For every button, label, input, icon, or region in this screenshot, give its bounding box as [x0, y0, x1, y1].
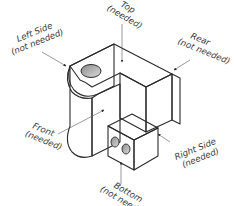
part-drawing: Top (needed) Rear (not needed) Left Side… — [0, 0, 234, 206]
lower-block-top — [108, 114, 158, 140]
notch-back-wall — [120, 73, 146, 132]
right-face — [172, 74, 180, 124]
rear-arrow — [174, 60, 190, 70]
right-arrow — [158, 134, 170, 142]
label-right: Right Side (needed) — [173, 136, 221, 171]
left-arrow — [42, 52, 66, 66]
label-bottom: Bottom (not needed) — [99, 175, 157, 206]
hole-2 — [122, 144, 130, 154]
label-rear: Rear (not needed) — [176, 27, 234, 66]
front-arrow — [58, 110, 104, 134]
hole-1 — [111, 137, 119, 147]
isometric-view-diagram: Top (needed) Rear (not needed) Left Side… — [0, 0, 234, 206]
label-left: Left Side (not needed) — [6, 17, 65, 56]
bracket-part — [67, 44, 180, 170]
lower-block-right — [134, 128, 158, 170]
label-front: Front (needed) — [24, 119, 68, 152]
boss-hole — [81, 65, 101, 78]
label-top: Top (needed) — [105, 0, 149, 31]
